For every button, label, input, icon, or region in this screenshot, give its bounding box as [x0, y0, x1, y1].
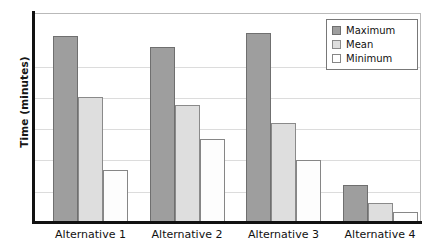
bar-maximum-3[interactable]	[246, 33, 271, 222]
chart-legend: Maximum Mean Minimum	[326, 19, 418, 70]
bar-chart: Time (minutes) Maximum Mean Minimum Alte…	[0, 0, 431, 248]
legend-label-maximum: Maximum	[346, 25, 395, 36]
y-axis-line	[32, 11, 35, 224]
bar-minimum-2[interactable]	[200, 139, 225, 222]
y-axis-title: Time (minutes)	[18, 32, 30, 172]
bar-mean-3[interactable]	[271, 123, 296, 222]
bar-mean-2[interactable]	[175, 105, 200, 222]
bar-maximum-4[interactable]	[343, 185, 368, 222]
bar-maximum-2[interactable]	[150, 47, 175, 222]
bar-minimum-3[interactable]	[296, 160, 321, 222]
legend-label-minimum: Minimum	[346, 53, 392, 64]
bar-maximum-1[interactable]	[53, 36, 78, 222]
mean-swatch-icon	[332, 40, 341, 49]
bar-mean-4[interactable]	[368, 203, 393, 222]
maximum-swatch-icon	[332, 26, 341, 35]
legend-item-mean[interactable]: Mean	[332, 38, 412, 51]
minimum-swatch-icon	[332, 54, 341, 63]
bar-minimum-1[interactable]	[103, 170, 128, 222]
x-axis-line	[32, 221, 422, 224]
legend-item-minimum[interactable]: Minimum	[332, 52, 412, 65]
x-axis-label-4: Alternative 4	[320, 228, 431, 241]
legend-label-mean: Mean	[346, 39, 373, 50]
bar-mean-1[interactable]	[78, 97, 103, 222]
legend-item-maximum[interactable]: Maximum	[332, 24, 412, 37]
